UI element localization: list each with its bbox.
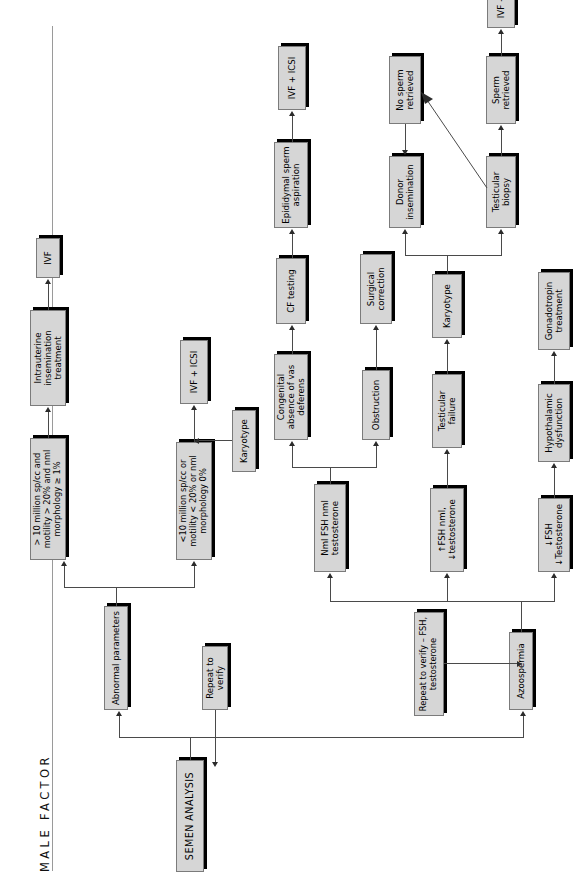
node-azoospermia-label: Azoospermia xyxy=(516,643,526,699)
node-repeat-to-verify-label: Repeat to verify xyxy=(205,649,225,707)
node-azoospermia: Azoospermia xyxy=(509,632,533,710)
connector-to-congenital xyxy=(292,446,293,468)
node-ivf-icsi-biopsy-visible: IVF + ICSI xyxy=(487,0,515,28)
arrowhead-biopsy-to-sperm xyxy=(498,125,504,130)
node-low-fsh: ↓FSH ↓Testosterone xyxy=(538,498,570,572)
connector-good-to-iui xyxy=(48,412,49,438)
connector-to-good-params xyxy=(64,566,65,588)
arrowhead-testicular-to-karyotype xyxy=(444,339,450,344)
connector-to-azoospermia xyxy=(523,716,524,738)
connector-highfsh-to-testicular xyxy=(447,454,448,488)
arrowhead-iui-to-ivf xyxy=(45,279,51,284)
node-cf-testing: CF testing xyxy=(276,258,306,324)
node-cf-testing-label: CF testing xyxy=(286,269,296,312)
node-karyotype-testicular-label: Karyotype xyxy=(442,284,452,328)
arrowhead-to-low-fsh xyxy=(551,573,557,578)
node-surgical-correction: Surgical correction xyxy=(360,254,392,324)
connector-karyotype-up xyxy=(199,440,232,441)
connector-iui-to-ivf xyxy=(48,284,49,310)
node-repeat-to-verify: Repeat to verify xyxy=(202,646,228,710)
connector-hypothalamic-to-gonadotropin xyxy=(554,356,555,384)
arrowhead-congenital-to-cf xyxy=(289,325,295,330)
figure-title: MALE FACTOR xyxy=(38,754,52,872)
arrowhead-to-congenital xyxy=(289,441,295,446)
connector-karyotype-fan xyxy=(405,255,501,256)
connector-abnormal-fan xyxy=(64,587,194,588)
node-gonadotropin-treatment-label: Gonadotropin treatment xyxy=(544,275,564,347)
arrowhead-hypothalamic-to-gonadotropin xyxy=(551,351,557,356)
node-ivf: IVF xyxy=(36,238,60,278)
arrowhead-good-to-iui xyxy=(45,407,51,412)
node-repeat-verify-fsh-label: Repeat to verify – FSH, testosterone xyxy=(419,615,439,713)
node-high-fsh-label: ↑FSH nml, ↓testosterone xyxy=(437,491,457,569)
node-good-parameters-label: > 10 million sp/cc and motility > 20% an… xyxy=(33,441,62,557)
connector-to-donor xyxy=(405,234,406,256)
connector-nmlfsh-out xyxy=(330,468,331,484)
node-congenital-absence: Congenital absence of vas deferens xyxy=(274,354,308,440)
connector-nosperm-to-donor xyxy=(405,124,406,150)
node-abnormal-parameters-label: Abnormal parameters xyxy=(111,611,121,705)
arrowhead-obstruction-to-surgical xyxy=(373,325,379,330)
node-iui-treatment: Intrauterine insemination treatment xyxy=(30,310,66,406)
node-karyotype-testicular: Karyotype xyxy=(432,274,462,338)
arrowhead-to-nml-fsh xyxy=(327,573,333,578)
node-obstruction: Obstruction xyxy=(362,370,390,440)
connector-poor-to-ivficsi xyxy=(194,410,195,442)
node-karyotype-semen-label: Karyotype xyxy=(239,419,249,463)
node-testicular-failure: Testicular failure xyxy=(432,374,462,448)
node-surgical-correction-label: Surgical correction xyxy=(366,257,386,321)
node-donor-insemination-label: Donor insemination xyxy=(395,159,415,225)
node-obstruction-label: Obstruction xyxy=(371,380,381,430)
arrowhead-to-biopsy xyxy=(498,229,504,234)
arrowhead-sperm-to-ivficsi xyxy=(498,29,504,34)
arrowhead-karyotype-up xyxy=(194,438,199,444)
node-epididymal-aspiration-label: Epididymal sperm aspiration xyxy=(281,145,301,225)
connector-to-obstruction xyxy=(376,446,377,468)
connector-semen-out xyxy=(190,738,191,760)
connector-testicular-to-karyotype xyxy=(447,344,448,374)
node-poor-parameters: <10 million sp/cc or motility < 20% or n… xyxy=(176,442,212,560)
arrowhead-to-good-params xyxy=(61,561,67,566)
connector-to-poor-params xyxy=(194,566,195,588)
connector-congenital-to-cf xyxy=(292,330,293,354)
arrowhead-to-abnormal xyxy=(116,711,122,716)
connector-biopsy-to-sperm xyxy=(501,130,502,156)
connector-semen-spine xyxy=(119,737,523,738)
arrowhead-to-azoospermia xyxy=(520,711,526,716)
connector-epididymal-to-ivficsi xyxy=(292,116,293,142)
node-poor-parameters-label: <10 million sp/cc or motility < 20% or n… xyxy=(179,445,208,557)
node-ivf-icsi-semen: IVF + ICSI xyxy=(180,340,208,404)
node-semen-analysis: SEMEN ANALYSIS xyxy=(176,760,204,872)
arrowhead-to-high-fsh xyxy=(444,573,450,578)
node-nml-fsh-label: Nml FSH nml testosterone xyxy=(320,487,340,569)
connector-repeatfsh-down xyxy=(444,663,517,664)
node-ivf-label: IVF xyxy=(43,251,53,264)
node-repeat-verify-fsh: Repeat to verify – FSH, testosterone xyxy=(414,612,444,716)
connector-to-abnormal xyxy=(119,716,120,738)
connector-karyotype-out xyxy=(447,256,448,274)
node-ivf-icsi-epididymal-label: IVF + ICSI xyxy=(287,57,297,100)
node-congenital-absence-label: Congenital absence of vas deferens xyxy=(276,357,306,437)
connector-repeat-to-abnormal xyxy=(215,710,216,762)
connector-to-biopsy xyxy=(501,234,502,256)
connector-cf-to-epididymal xyxy=(292,234,293,258)
connector-abnormal-out xyxy=(116,588,117,606)
node-testicular-failure-label: Testicular failure xyxy=(437,377,457,445)
connector-to-high-fsh xyxy=(447,578,448,602)
node-semen-analysis-label: SEMEN ANALYSIS xyxy=(184,772,195,860)
arrowhead-repeatfsh-down xyxy=(517,661,522,667)
connector-azoo-fan xyxy=(330,601,554,602)
connector-obstruction-to-surgical xyxy=(376,330,377,370)
connector-azoo-out xyxy=(521,602,522,632)
node-iui-treatment-label: Intrauterine insemination treatment xyxy=(33,313,63,403)
arrowhead-nosperm-to-donor xyxy=(402,150,408,155)
connector-lowfsh-to-hypothalamic xyxy=(554,468,555,498)
connector-biopsy-to-nosperm-diagonal xyxy=(415,86,495,196)
connector-sperm-to-ivficsi xyxy=(501,34,502,56)
node-hypothalamic-dysfunction: Hypothalamic dysfunction xyxy=(538,384,570,462)
node-ivf-icsi-epididymal: IVF + ICSI xyxy=(278,46,306,110)
node-gonadotropin-treatment: Gonadotropin treatment xyxy=(538,272,570,350)
node-no-sperm-retrieved-label: No sperm retrieved xyxy=(395,59,415,121)
node-karyotype-semen: Karyotype xyxy=(232,410,256,472)
connector-to-low-fsh xyxy=(554,578,555,602)
